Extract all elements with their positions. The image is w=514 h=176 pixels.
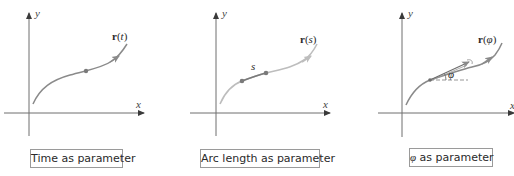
curve-direction-arrow — [482, 57, 492, 64]
curve-direction-arrow — [110, 56, 119, 62]
x-axis-label: x — [509, 99, 514, 111]
curve-label: r(s) — [300, 33, 317, 46]
caption-text: as parameter — [420, 151, 494, 164]
arc-length-label: s — [251, 60, 255, 72]
curve — [33, 44, 127, 104]
y-axis-label: y — [34, 7, 40, 19]
angle-label: φ — [448, 68, 454, 80]
caption-angle-as-parameter: φ as parameter — [409, 148, 493, 167]
x-axis-label: x — [322, 98, 328, 110]
y-axis-label: y — [407, 7, 413, 19]
curve-direction-arrow — [302, 56, 311, 62]
curve-label: r(t) — [112, 30, 128, 43]
tangent-point — [428, 78, 432, 82]
y-axis-label: y — [221, 7, 227, 19]
arc-end-point — [264, 71, 269, 76]
caption-time-as-parameter: Time as parameter — [30, 149, 123, 168]
caption-arc-length-as-parameter: Arc length as parameter — [200, 149, 320, 168]
tangent-end-arc — [467, 60, 472, 64]
curve — [220, 44, 317, 104]
panel-angle: y x φ r(φ) — [378, 7, 514, 137]
curve-label: r(φ) — [478, 33, 497, 46]
curve-point — [84, 69, 88, 73]
arc-segment — [242, 73, 266, 81]
caption-text: Time as parameter — [31, 152, 135, 165]
caption-phi-symbol: φ — [410, 151, 416, 163]
arc-start-point — [240, 79, 245, 84]
panel-arc-length: y x s r(s) — [190, 7, 330, 136]
x-axis-label: x — [135, 98, 141, 110]
caption-text: Arc length as parameter — [201, 152, 335, 165]
panel-time: y x r(t) — [4, 7, 144, 136]
